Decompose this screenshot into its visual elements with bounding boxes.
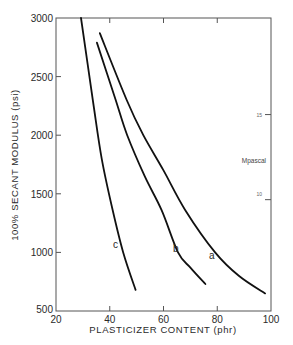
axes [56,18,271,311]
y-axis-title: 100% SECANT MODULUS (psi) [9,89,20,241]
x-axis-title: PLASTICIZER CONTENT (phr) [89,324,236,335]
curve-label-c: c [113,239,118,250]
chart-svg: 2040608010050010001500200025003000 PLAST… [0,0,293,345]
secondary-tick-label-15: 15 [256,112,262,118]
y-tick-label: 2000 [31,130,54,141]
x-tick-label: 100 [263,314,280,325]
x-tick-label: 20 [50,314,62,325]
secondary-tick-label-10: 10 [256,191,262,197]
plot-frame [56,18,271,311]
y-tick-label: 1500 [31,189,54,200]
y-tick-label: 3000 [31,13,54,24]
secondary-axis-unit-label: Mpascal [242,157,267,165]
y-tick-label: 500 [36,304,53,315]
curve-label-b: b [173,243,179,254]
y-tick-label: 2500 [31,72,54,83]
curve-c [81,18,136,290]
curve-label-a: a [209,250,215,261]
y-tick-label: 1000 [31,247,54,258]
modulus-vs-plasticizer-chart: 2040608010050010001500200025003000 PLAST… [0,0,293,345]
